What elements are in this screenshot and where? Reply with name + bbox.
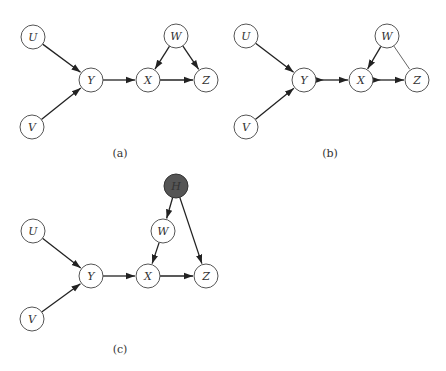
edge-h-to-w xyxy=(167,198,173,219)
edge-v-to-y xyxy=(42,284,81,312)
edge-w-to-x xyxy=(368,46,381,68)
edge-w-to-z xyxy=(394,46,410,69)
node-label: V xyxy=(242,121,251,134)
node-y: Y xyxy=(292,68,316,92)
node-w: W xyxy=(164,24,188,48)
node-label: V xyxy=(28,121,37,134)
node-label: V xyxy=(28,313,37,326)
node-label: W xyxy=(381,30,394,43)
edge-v-to-y xyxy=(255,88,294,119)
causal-graphs-figure: UVYXWZ(a)UVYXWZ(b)UVYXWZH(c) xyxy=(0,0,446,371)
edge-w-to-z xyxy=(183,46,199,69)
node-label: Z xyxy=(412,74,421,87)
node-u: U xyxy=(21,219,45,243)
diagram-a: UVYXWZ(a) xyxy=(20,24,218,160)
node-v: V xyxy=(234,115,258,139)
node-h: H xyxy=(164,174,188,198)
edge-w-to-x xyxy=(152,242,159,263)
node-x: X xyxy=(136,68,160,92)
caption-a: (a) xyxy=(112,147,127,160)
caption-c: (c) xyxy=(113,343,128,356)
edge-h-to-z xyxy=(180,197,202,263)
node-x: X xyxy=(136,264,160,288)
node-v: V xyxy=(20,307,44,331)
node-label: U xyxy=(28,225,38,238)
node-w: W xyxy=(375,24,399,48)
node-label: U xyxy=(241,30,251,43)
node-z: Z xyxy=(405,68,429,92)
node-label: Z xyxy=(201,270,210,283)
diagram-c: UVYXWZH(c) xyxy=(20,174,218,356)
node-v: V xyxy=(20,115,44,139)
node-z: Z xyxy=(194,68,218,92)
edge-u-to-y xyxy=(256,43,294,72)
node-label: Z xyxy=(201,74,210,87)
node-label: X xyxy=(356,74,366,87)
caption-b: (b) xyxy=(322,147,338,160)
node-label: X xyxy=(143,74,153,87)
edge-u-to-y xyxy=(42,238,80,268)
node-u: U xyxy=(234,24,258,48)
node-x: X xyxy=(349,68,373,92)
node-u: U xyxy=(21,25,45,49)
edge-u-to-y xyxy=(43,44,81,72)
node-w: W xyxy=(151,219,175,243)
node-z: Z xyxy=(194,264,218,288)
node-y: Y xyxy=(79,68,103,92)
node-y: Y xyxy=(79,264,103,288)
node-label: W xyxy=(157,225,170,238)
node-label: U xyxy=(28,31,38,44)
edge-v-to-y xyxy=(41,88,80,119)
diagram-b: UVYXWZ(b) xyxy=(234,24,429,160)
node-label: X xyxy=(143,270,153,283)
edge-w-to-x xyxy=(155,46,170,69)
node-label: H xyxy=(170,180,181,193)
node-label: W xyxy=(170,30,183,43)
